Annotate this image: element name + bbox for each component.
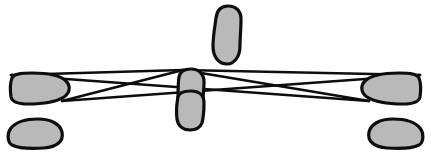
top-center-lobe — [213, 6, 241, 64]
right-upper-lobe — [362, 73, 421, 104]
figure-canvas — [0, 0, 431, 158]
left-upper-lobe — [10, 73, 69, 104]
bilateral-ray-diagram — [0, 0, 431, 158]
right-lower-lobe — [369, 119, 423, 148]
center-lower-lobe — [177, 91, 204, 130]
left-lower-lobe — [8, 119, 62, 148]
